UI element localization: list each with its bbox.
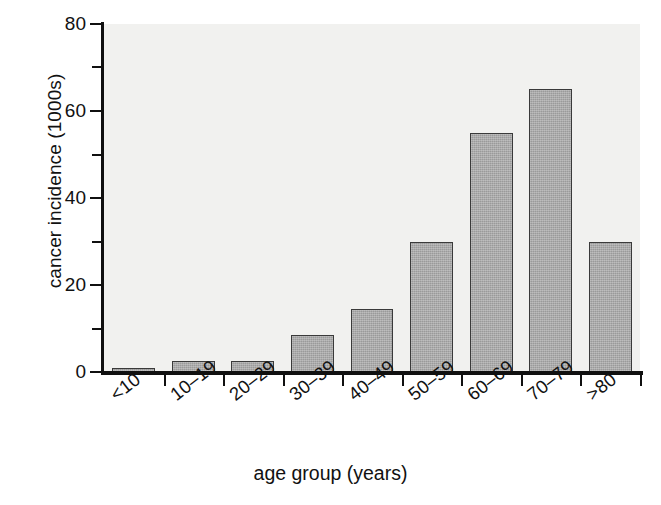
x-axis-title: age group (years)	[0, 462, 661, 485]
x-tick-0	[164, 375, 166, 386]
y-tick-label-20: 20	[50, 275, 86, 294]
bar-50–59	[410, 242, 453, 373]
y-axis-tick-labels: 80 60 40 20 0	[42, 0, 86, 400]
x-tick-5	[461, 375, 463, 386]
x-tick-6	[521, 375, 523, 386]
bar->80	[589, 242, 632, 373]
y-axis-line	[101, 22, 104, 374]
bar-70–79	[529, 89, 572, 372]
x-tick-1	[223, 375, 225, 386]
bar-60–69	[470, 133, 513, 372]
y-tick-label-0: 0	[50, 362, 86, 381]
y-tick-label-80: 80	[50, 14, 86, 33]
x-tick-2	[283, 375, 285, 386]
x-tick-7	[580, 375, 582, 386]
y-tick-label-60: 60	[50, 101, 86, 120]
bar-chart-figure: cancer incidence (1000s) 80 60 40 20 0 <…	[0, 0, 661, 505]
x-tick-8	[640, 375, 642, 386]
x-tick-4	[402, 375, 404, 386]
plot-area	[104, 24, 640, 372]
y-tick-label-40: 40	[50, 188, 86, 207]
x-tick-3	[342, 375, 344, 386]
